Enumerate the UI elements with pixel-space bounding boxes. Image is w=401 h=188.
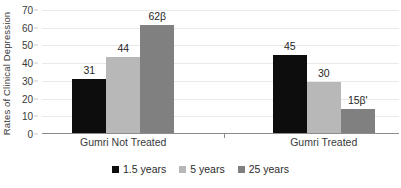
- gridline: [42, 28, 399, 29]
- y-axis-tick-label: 0: [27, 129, 33, 140]
- legend-swatch-icon: [238, 166, 245, 173]
- x-axis-category-label: Gumri Treated: [290, 136, 357, 148]
- y-axis-tick-label: 20: [22, 93, 33, 104]
- x-axis-category-label: Gumri Not Treated: [80, 136, 166, 148]
- y-axis-tick-label: 40: [22, 58, 33, 69]
- legend-label: 1.5 years: [123, 163, 166, 175]
- y-axis-tick-label: 10: [22, 111, 33, 122]
- bar: [341, 109, 375, 133]
- y-axis-title-text: Rates of Clinical Depression: [2, 11, 13, 135]
- bar-value-label: 62β: [148, 10, 166, 22]
- gridline: [42, 10, 399, 11]
- bar: [140, 25, 174, 133]
- y-axis-tick-mark: [34, 98, 38, 99]
- y-axis-tick-labels: 706050403020100: [15, 10, 38, 134]
- x-axis-category-labels: Gumri Not TreatedGumri Treated: [42, 136, 399, 152]
- legend-item[interactable]: 1.5 years: [112, 163, 166, 175]
- legend-item[interactable]: 25 years: [238, 163, 289, 175]
- chart-legend: 1.5 years5 years25 years: [0, 163, 401, 175]
- y-axis-tick-mark: [34, 45, 38, 46]
- bar-value-label: 45: [284, 40, 296, 52]
- legend-label: 5 years: [190, 163, 224, 175]
- y-axis-tick-label: 50: [22, 40, 33, 51]
- bar: [72, 79, 106, 133]
- y-axis-tick-label: 30: [22, 75, 33, 86]
- y-axis-title: Rates of Clinical Depression: [0, 0, 14, 146]
- y-axis-tick-label: 70: [22, 5, 33, 16]
- bar-value-label: 44: [117, 42, 129, 54]
- bar-value-label: 15β': [348, 94, 368, 106]
- plot-area: 314462β453015β': [42, 10, 399, 134]
- y-axis-tick-mark: [34, 80, 38, 81]
- y-axis-tick-mark: [34, 116, 38, 117]
- bar-value-label: 31: [83, 64, 95, 76]
- bar: [307, 82, 341, 133]
- bar: [106, 57, 140, 133]
- gridline: [42, 63, 399, 64]
- bar-chart: Rates of Clinical Depression 70605040302…: [0, 0, 401, 188]
- y-axis-tick-label: 60: [22, 22, 33, 33]
- x-axis-line: [42, 133, 399, 134]
- y-axis-tick-mark: [34, 63, 38, 64]
- legend-swatch-icon: [179, 166, 186, 173]
- gridline: [42, 45, 399, 46]
- y-axis-tick-mark: [34, 10, 38, 11]
- legend-swatch-icon: [112, 166, 119, 173]
- legend-item[interactable]: 5 years: [179, 163, 224, 175]
- bar-value-label: 30: [318, 67, 330, 79]
- legend-label: 25 years: [249, 163, 289, 175]
- y-axis-tick-mark: [34, 134, 38, 135]
- y-axis-tick-mark: [34, 27, 38, 28]
- bar: [273, 55, 307, 133]
